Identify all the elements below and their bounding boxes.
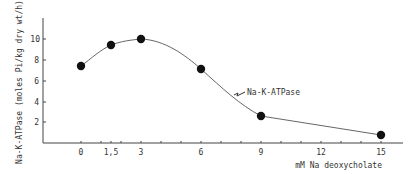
y-tick-label: 8	[34, 56, 39, 65]
y-tick-label: 10	[30, 35, 40, 44]
x-tick-labels: 0 1,5 3 6 9 12 15	[79, 148, 386, 157]
x-tick-label: 3	[139, 148, 144, 157]
data-points	[77, 35, 385, 139]
data-point	[257, 112, 265, 120]
y-axis-title: Na-K-ATPase (moles Pi/kg dry wt/h)	[15, 0, 24, 164]
data-point	[137, 35, 145, 43]
data-point	[197, 65, 205, 73]
x-tick-label: 1,5	[104, 148, 119, 157]
x-axis-title: mM Na deoxycholate	[295, 161, 382, 170]
data-point	[377, 131, 385, 139]
x-tick-label: 15	[376, 148, 386, 157]
y-tick-label: 4	[34, 98, 39, 107]
x-tick-label: 12	[316, 148, 326, 157]
data-point	[77, 62, 85, 70]
x-tick-label: 6	[199, 148, 204, 157]
data-point	[107, 41, 115, 49]
line-chart: 2 4 6 8 10 0 1,5 3 6 9 12 15 mM Na deoxy…	[0, 0, 415, 174]
series-annotation: Na-K-ATPase	[247, 88, 300, 97]
x-tick-label: 0	[79, 148, 84, 157]
series-curve	[81, 39, 381, 135]
x-tick-label: 9	[259, 148, 264, 157]
y-tick-label: 2	[34, 118, 39, 127]
y-tick-label: 6	[34, 77, 39, 86]
annotation-leader-icon	[234, 92, 245, 96]
y-tick-labels: 2 4 6 8 10	[30, 35, 40, 127]
